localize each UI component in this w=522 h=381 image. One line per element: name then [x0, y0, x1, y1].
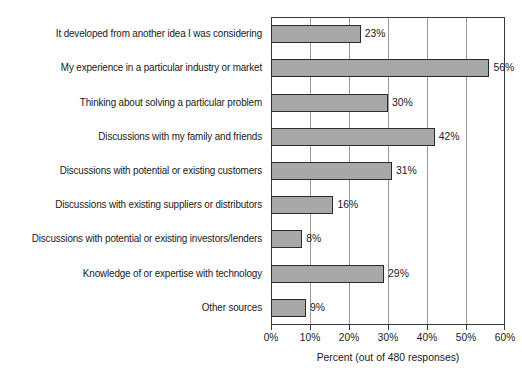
bar[interactable] [271, 162, 392, 180]
bar-value-label: 31% [396, 164, 417, 178]
category-label: Thinking about solving a particular prob… [8, 97, 262, 108]
x-axis-tick-mark [271, 325, 272, 330]
bar[interactable] [271, 230, 302, 248]
category-axis-labels: It developed from another idea I was con… [0, 17, 262, 325]
bar-value-label: 42% [439, 130, 460, 144]
category-label: Other sources [8, 302, 262, 313]
bar[interactable] [271, 94, 388, 112]
bar[interactable] [271, 128, 435, 146]
x-axis-tick-label: 50% [446, 331, 486, 344]
bar-value-label: 8% [306, 232, 321, 246]
category-label: Discussions with my family and friends [8, 131, 262, 142]
x-axis-tick-mark [427, 325, 428, 330]
category-label: Discussions with potential or existing c… [8, 165, 262, 176]
bar-chart: It developed from another idea I was con… [0, 0, 522, 381]
x-axis-tick-mark [310, 325, 311, 330]
x-axis-tick-label: 40% [407, 331, 447, 344]
x-axis-tick-label: 10% [290, 331, 330, 344]
bar[interactable] [271, 265, 384, 283]
x-axis-tick-label: 30% [368, 331, 408, 344]
bar-value-label: 29% [388, 267, 409, 281]
x-axis-tick-mark [388, 325, 389, 330]
bars-layer: 23%56%30%42%31%16%8%29%9% [271, 17, 522, 325]
bar-value-label: 9% [310, 301, 325, 315]
bar[interactable] [271, 196, 333, 214]
bar[interactable] [271, 25, 361, 43]
bar[interactable] [271, 299, 306, 317]
category-label: Discussions with potential or existing i… [8, 233, 262, 244]
x-axis-tick-label: 0% [251, 331, 291, 344]
x-axis-tick-mark [504, 325, 505, 330]
bar[interactable] [271, 59, 489, 77]
category-label: My experience in a particular industry o… [8, 62, 262, 73]
bar-value-label: 23% [365, 27, 386, 41]
category-label: Discussions with existing suppliers or d… [8, 199, 262, 210]
x-axis-tick-label: 20% [329, 331, 369, 344]
category-label: It developed from another idea I was con… [8, 28, 262, 39]
bar-value-label: 56% [493, 61, 514, 75]
x-axis-title: Percent (out of 480 responses) [271, 351, 505, 364]
x-axis-tick-label: 60% [485, 331, 522, 344]
x-axis-tick-mark [349, 325, 350, 330]
bar-value-label: 16% [337, 198, 358, 212]
category-label: Knowledge of or expertise with technolog… [8, 268, 262, 279]
x-axis-tick-mark [466, 325, 467, 330]
bar-value-label: 30% [392, 96, 413, 110]
